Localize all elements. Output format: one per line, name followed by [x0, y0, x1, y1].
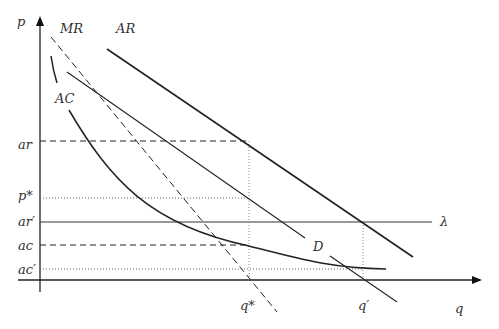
q-prime-tick-label: q′ [358, 298, 369, 313]
ac-curve [69, 110, 386, 269]
labels: p q MR AR AC D λ ar p* ar′ ac ac′ q* q′ [17, 14, 463, 316]
curves [51, 37, 413, 312]
ac-label: AC [54, 91, 74, 106]
guide-lines [40, 141, 432, 280]
ac-tick-label: ac [18, 238, 34, 253]
ar-label: AR [115, 21, 135, 36]
ar-prime-tick-label: ar′ [18, 214, 35, 229]
ar-tick-label: ar [18, 137, 33, 152]
p-star-tick-label: p* [18, 188, 33, 203]
y-axis-label: p [17, 14, 26, 29]
ac-curve-segment-top [51, 56, 57, 83]
demand-curve-upper [67, 72, 305, 238]
x-axis-label: q [455, 301, 463, 316]
mr-curve [51, 37, 277, 312]
q-star-tick-label: q* [240, 298, 255, 313]
lambda-label: λ [439, 214, 448, 229]
d-label: D [312, 239, 324, 254]
mr-label: MR [59, 21, 83, 36]
ar-curve [107, 49, 413, 257]
ac-prime-tick-label: ac′ [18, 262, 36, 277]
economics-diagram: p q MR AR AC D λ ar p* ar′ ac ac′ q* q′ [0, 0, 499, 329]
axes [18, 18, 480, 292]
demand-curve-lower [330, 256, 397, 302]
